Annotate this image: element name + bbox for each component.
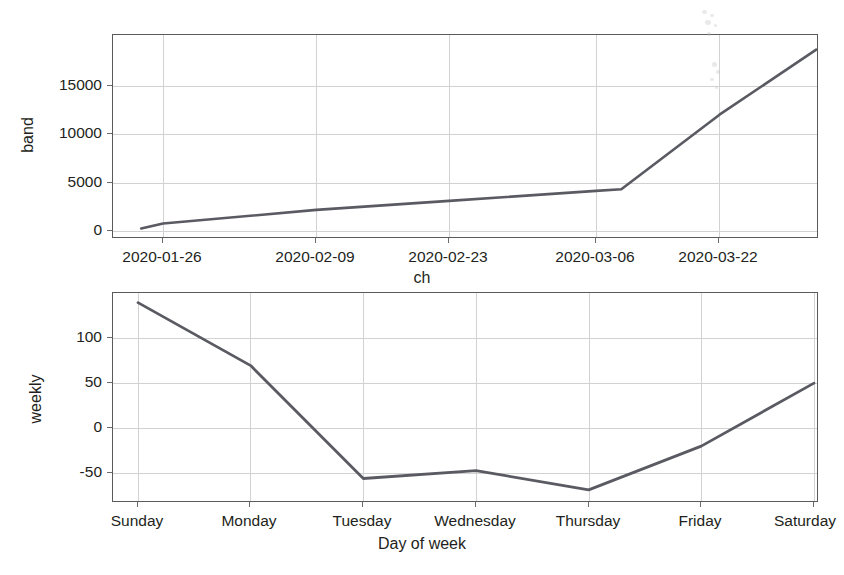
xtick-label-3: 2020-03-06 bbox=[555, 248, 634, 266]
xtick-label-0: 2020-01-26 bbox=[122, 248, 201, 266]
xtick-label-tuesday: Tuesday bbox=[333, 512, 392, 530]
ytick-label-0: 0 bbox=[30, 418, 102, 436]
figure-canvas: band 0 5000 10000 15000 bbox=[0, 0, 844, 575]
ytick-mark-0 bbox=[107, 230, 112, 231]
xtick-mark-4 bbox=[718, 238, 719, 243]
xtick-label-sunday: Sunday bbox=[111, 512, 164, 530]
xtick-mark-wednesday bbox=[475, 502, 476, 507]
xtick-label-thursday: Thursday bbox=[556, 512, 621, 530]
xtick-mark-sunday bbox=[137, 502, 138, 507]
ytick-mark-100 bbox=[107, 337, 112, 338]
ytick-mark-neg50 bbox=[107, 472, 112, 473]
ytick-label-5000: 5000 bbox=[20, 173, 102, 191]
ytick-mark-0 bbox=[107, 427, 112, 428]
xtick-mark-2 bbox=[448, 238, 449, 243]
ytick-label-10000: 10000 bbox=[20, 124, 102, 142]
xtick-label-monday: Monday bbox=[221, 512, 276, 530]
xtick-mark-friday bbox=[700, 502, 701, 507]
ytick-mark-5000 bbox=[107, 182, 112, 183]
ytick-label-0: 0 bbox=[20, 221, 102, 239]
xtick-mark-0 bbox=[162, 238, 163, 243]
xtick-label-saturday: Saturday bbox=[774, 512, 836, 530]
xtick-label-2: 2020-02-23 bbox=[408, 248, 487, 266]
axis-title-day-of-week: Day of week bbox=[0, 535, 844, 553]
ytick-mark-10000 bbox=[107, 133, 112, 134]
xtick-mark-3 bbox=[595, 238, 596, 243]
chart-panel-weekly: weekly 100 50 0 -50 bbox=[0, 285, 844, 575]
xtick-label-wednesday: Wednesday bbox=[434, 512, 516, 530]
xtick-label-4: 2020-03-22 bbox=[678, 248, 757, 266]
ytick-mark-15000 bbox=[107, 85, 112, 86]
xtick-label-1: 2020-02-09 bbox=[275, 248, 354, 266]
xtick-mark-thursday bbox=[588, 502, 589, 507]
ytick-label-50: 50 bbox=[30, 373, 102, 391]
plot-area-weekly bbox=[112, 292, 818, 502]
xtick-mark-monday bbox=[249, 502, 250, 507]
xtick-label-friday: Friday bbox=[678, 512, 721, 530]
xtick-mark-saturday bbox=[813, 502, 814, 507]
trend-line-series bbox=[113, 35, 819, 239]
ytick-label-neg50: -50 bbox=[30, 463, 102, 481]
chart-panel-trend: band 0 5000 10000 15000 bbox=[0, 0, 844, 290]
ytick-mark-50 bbox=[107, 382, 112, 383]
plot-area-trend bbox=[112, 34, 818, 238]
weekly-line-series bbox=[113, 293, 819, 503]
ytick-label-15000: 15000 bbox=[20, 76, 102, 94]
xtick-mark-tuesday bbox=[362, 502, 363, 507]
ytick-label-100: 100 bbox=[30, 328, 102, 346]
xtick-mark-1 bbox=[315, 238, 316, 243]
